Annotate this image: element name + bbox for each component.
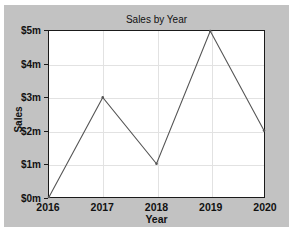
- data-point-marker: [263, 129, 266, 132]
- data-point-marker: [48, 196, 51, 199]
- y-axis-tick: [44, 198, 48, 199]
- x-axis-label: Year: [48, 213, 265, 225]
- y-axis-tick: [44, 97, 48, 98]
- y-axis-tick: [44, 164, 48, 165]
- chart-figure: Sales by Year Sales Year $0m$1m$2m$3m$4m…: [4, 5, 289, 227]
- x-axis-tick-label: 2017: [91, 201, 114, 213]
- data-point-marker: [209, 30, 212, 33]
- y-axis-tick-label: $5m: [21, 25, 41, 36]
- y-axis-tick: [44, 64, 48, 65]
- y-axis-tick-label: $1m: [21, 159, 41, 170]
- y-axis-tick: [44, 131, 48, 132]
- data-point-marker: [101, 96, 104, 99]
- x-axis-tick-label: 2019: [199, 201, 222, 213]
- sales-line: [49, 31, 264, 197]
- data-point-marker: [155, 163, 158, 166]
- y-axis-tick-label: $4m: [21, 58, 41, 69]
- y-axis-tick-label: $2m: [21, 125, 41, 136]
- y-axis-tick-label: $3m: [21, 92, 41, 103]
- chart-title: Sales by Year: [48, 14, 265, 25]
- sales-line-series: [49, 31, 264, 197]
- plot-area: [48, 30, 265, 198]
- y-axis-tick: [44, 30, 48, 31]
- x-axis-tick-label: 2016: [36, 201, 59, 213]
- x-axis-tick-label: 2018: [145, 201, 168, 213]
- x-axis-tick-label: 2020: [253, 201, 276, 213]
